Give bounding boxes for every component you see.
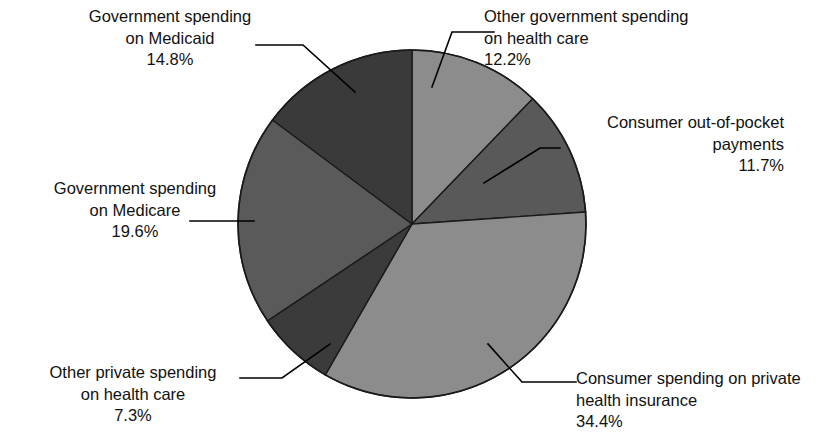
label-line-2: payments (556, 134, 784, 156)
label-percent: 19.6% (10, 221, 260, 243)
slice-label-other-government-spending: Other government spending on health care… (484, 6, 784, 71)
label-percent: 11.7% (556, 155, 784, 177)
slice-label-government-spending-medicare: Government spending on Medicare 19.6% (10, 178, 260, 243)
label-line-2: health insurance (576, 390, 824, 412)
slice-label-other-private-spending: Other private spending on health care 7.… (8, 362, 258, 427)
label-percent: 14.8% (40, 49, 300, 71)
label-line-1: Consumer spending on private (576, 368, 824, 390)
label-line-1: Government spending (40, 6, 300, 28)
label-line-1: Other private spending (8, 362, 258, 384)
slice-label-government-spending-medicaid: Government spending on Medicaid 14.8% (40, 6, 300, 71)
label-line-1: Government spending (10, 178, 260, 200)
pie-chart-figure: Government spending on Medicaid 14.8% Go… (0, 0, 824, 439)
slice-label-consumer-out-of-pocket: Consumer out-of-pocket payments 11.7% (556, 112, 784, 177)
label-percent: 34.4% (576, 411, 824, 433)
label-percent: 12.2% (484, 49, 784, 71)
label-line-2: on Medicaid (40, 28, 300, 50)
label-line-2: on health care (484, 28, 784, 50)
label-line-1: Other government spending (484, 6, 784, 28)
label-percent: 7.3% (8, 405, 258, 427)
pie-slices-group (238, 50, 586, 398)
label-line-1: Consumer out-of-pocket (556, 112, 784, 134)
label-line-2: on health care (8, 384, 258, 406)
label-line-2: on Medicare (10, 200, 260, 222)
slice-label-private-health-insurance: Consumer spending on private health insu… (576, 368, 824, 433)
